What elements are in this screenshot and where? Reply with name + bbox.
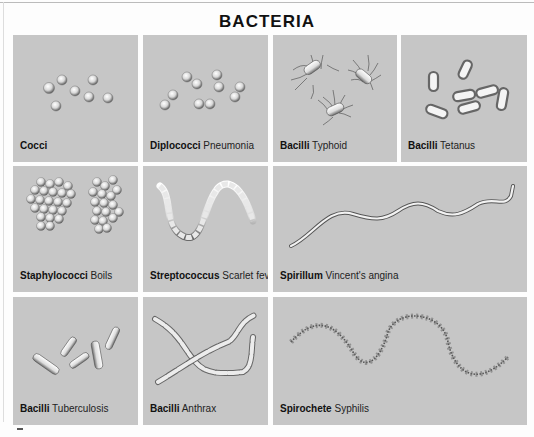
panel-cocci: Cocci (13, 35, 138, 162)
panel-label: Bacilli Tuberculosis (20, 403, 108, 414)
panel-label: Spirillum Vincent's angina (280, 270, 398, 281)
panel-spirillum: Spirillum Vincent's angina (273, 166, 527, 292)
top-rule (0, 2, 534, 3)
panel-label: Bacilli Tetanus (408, 140, 475, 151)
panel-label: Bacilli Anthrax (150, 403, 216, 414)
panel-staphylococci: Staphylococci Boils (13, 166, 138, 292)
panel-label: Cocci (20, 140, 47, 151)
panel-label: Streptococcus Scarlet fever (150, 270, 268, 281)
footer-mark (17, 428, 23, 430)
panel-spirochete: Spirochete Syphilis (273, 297, 527, 425)
panel-label: Bacilli Typhoid (280, 140, 347, 151)
panel-streptococcus: Streptococcus Scarlet fever (143, 166, 268, 292)
left-rule (3, 2, 4, 422)
panel-bacilli-anthrax: Bacilli Anthrax (143, 297, 268, 425)
page-title: BACTERIA (0, 12, 534, 32)
panel-bacilli-tetanus: Bacilli Tetanus (401, 35, 527, 162)
panel-label: Diplococci Pneumonia (150, 140, 254, 151)
panel-label: Staphylococci Boils (20, 270, 112, 281)
panel-bacilli-typhoid: Bacilli Typhoid (273, 35, 397, 162)
panel-label: Spirochete Syphilis (280, 403, 369, 414)
panel-diplococci: Diplococci Pneumonia (143, 35, 268, 162)
panel-bacilli-tuberculosis: Bacilli Tuberculosis (13, 297, 138, 425)
